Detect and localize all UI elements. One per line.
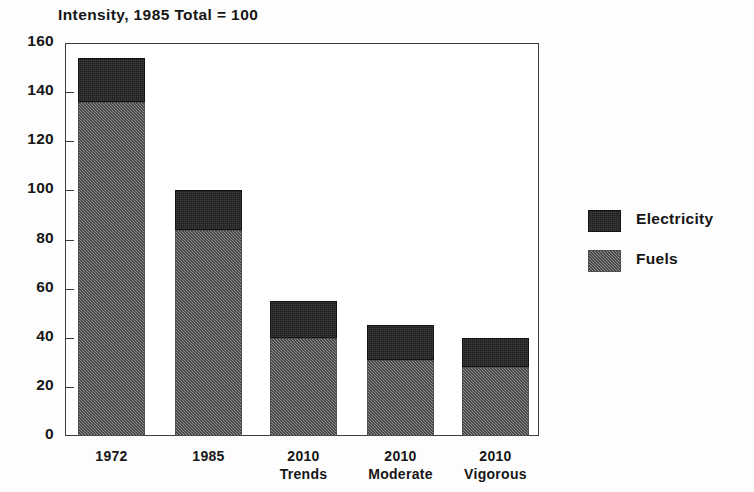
y-axis-tick-mark (65, 141, 74, 142)
chart-title: Intensity, 1985 Total = 100 (58, 6, 258, 24)
bar-segment-fuels (78, 102, 145, 436)
y-axis-tick-mark (65, 190, 74, 191)
legend-item: Electricity (588, 205, 748, 245)
bar-segment-fuels (270, 338, 337, 436)
bar-segment-electricity (175, 190, 242, 229)
y-axis-tick-label: 80 (8, 229, 54, 247)
bar-segment-electricity (367, 325, 434, 359)
chart-legend: ElectricityFuels (588, 205, 748, 285)
legend-swatch-electricity (588, 210, 621, 232)
y-axis-tick-label: 60 (8, 278, 54, 296)
bar-group (78, 43, 145, 436)
y-axis-tick-label: 100 (8, 179, 54, 197)
y-axis-tick-label: 120 (8, 130, 54, 148)
bar-group (462, 43, 529, 436)
x-axis-label-line2: Vigorous (434, 465, 557, 483)
y-axis-tick-mark (65, 240, 74, 241)
x-axis-label-line1: 2010 (434, 447, 557, 465)
bar-segment-fuels (367, 360, 434, 436)
y-axis-tick-label: 0 (8, 425, 54, 443)
legend-item: Fuels (588, 245, 748, 285)
y-axis-tick-mark (65, 289, 74, 290)
y-axis-tick-label: 40 (8, 327, 54, 345)
bar-group (367, 43, 434, 436)
y-axis-tick-label: 160 (8, 32, 54, 50)
y-axis-tick-mark (65, 387, 74, 388)
bar-segment-fuels (462, 367, 529, 436)
y-axis-tick-mark (65, 338, 74, 339)
chart-figure: Intensity, 1985 Total = 100 020406080100… (0, 0, 754, 492)
y-axis-tick-mark (65, 92, 74, 93)
legend-swatch-fuels (588, 250, 621, 272)
x-axis-tick-label: 2010Vigorous (434, 447, 557, 483)
legend-label: Fuels (636, 250, 678, 268)
bar-segment-electricity (462, 338, 529, 367)
bar-group (270, 43, 337, 436)
y-axis-tick-label: 140 (8, 81, 54, 99)
y-axis: 020406080100120140160 (8, 0, 58, 492)
bar-segment-fuels (175, 230, 242, 436)
legend-label: Electricity (636, 210, 713, 228)
y-axis-tick-label: 20 (8, 376, 54, 394)
bar-segment-electricity (270, 301, 337, 338)
bar-segment-electricity (78, 58, 145, 102)
bar-group (175, 43, 242, 436)
